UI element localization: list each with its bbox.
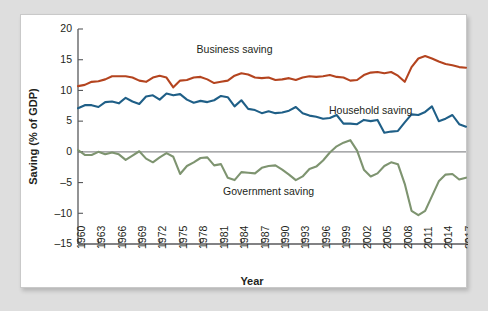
series-label-business-saving: Business saving (197, 43, 273, 55)
y-tick-label: –10 (54, 207, 72, 219)
x-tick-label: 1966 (116, 225, 128, 249)
x-tick-label: 1990 (279, 225, 291, 249)
y-tick-label: 5 (66, 114, 72, 126)
y-tick-label: –5 (60, 176, 72, 188)
x-tick-label: 1987 (259, 225, 271, 249)
x-axis-title: Year (240, 275, 264, 287)
x-tick-label: 2014 (442, 225, 454, 249)
y-tick-label: 10 (60, 84, 72, 96)
series-label-government-saving: Government saving (223, 185, 314, 197)
x-tick-label: 1972 (156, 225, 168, 249)
y-tick-label: –15 (54, 237, 72, 249)
x-tick-label: 1975 (177, 225, 189, 249)
x-tick-label: 1963 (95, 225, 107, 249)
series-line-business-saving (78, 56, 466, 87)
x-tick-label: 2011 (422, 226, 434, 249)
x-tick-label: 2008 (402, 225, 414, 249)
y-tick-label: 15 (60, 53, 72, 65)
x-tick-label: 1996 (320, 225, 332, 249)
x-tick-label: 1999 (340, 225, 352, 249)
y-tick-label: 0 (66, 145, 72, 157)
x-tick-label: 2017 (463, 225, 468, 249)
figure-panel: 20151050–5–10–15196019631966196919721975… (20, 14, 467, 288)
x-tick-label: 1993 (299, 225, 311, 249)
x-tick-label: 1960 (75, 225, 87, 249)
series-label-household-saving: Household saving (329, 104, 413, 116)
x-tick-label: 1969 (136, 225, 148, 249)
y-axis-title: Saving (% of GDP) (27, 88, 39, 185)
x-tick-label: 2002 (361, 225, 373, 249)
chart-svg: 20151050–5–10–15196019631966196919721975… (21, 15, 468, 289)
x-tick-label: 1978 (197, 225, 209, 249)
x-tick-label: 2005 (381, 225, 393, 249)
y-tick-label: 20 (60, 22, 72, 34)
x-tick-label: 1981 (218, 225, 230, 249)
x-tick-label: 1984 (238, 225, 250, 249)
saving-percent-gdp-line-chart: 20151050–5–10–15196019631966196919721975… (21, 15, 468, 289)
